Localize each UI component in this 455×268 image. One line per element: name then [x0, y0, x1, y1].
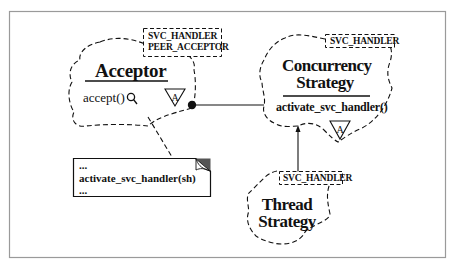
concurrency-class-name-line-1: Concurrency	[282, 57, 368, 74]
concurrency-abstract-icon: A	[330, 121, 350, 139]
thread-class-name-line-1: Thread	[258, 196, 316, 213]
note-line-1: ...	[79, 159, 87, 171]
thread-class-name-line-2: Strategy	[258, 213, 316, 230]
acceptor-template-param-2: PEER_ACCEPTOR	[148, 42, 229, 53]
thread-template-param: SVC_HANDLER	[283, 173, 352, 184]
magnifier-icon	[127, 93, 137, 104]
association-end-dot	[188, 101, 196, 109]
concurrency-method-activate: activate_svc_handler()	[276, 101, 388, 113]
concurrency-template-param: SVC_HANDLER	[330, 36, 399, 47]
acceptor-abstract-icon: A	[165, 89, 185, 106]
note-line-3: ...	[79, 184, 87, 196]
concurrency-class-name-line-2: Strategy	[282, 74, 368, 91]
svg-text:A: A	[171, 92, 179, 103]
acceptor-class-name: Acceptor	[95, 61, 166, 80]
note-line-2: activate_svc_handler(sh)	[79, 172, 196, 184]
acceptor-method-accept: accept()	[83, 91, 125, 104]
acceptor-template-param-1: SVC_HANDLER	[148, 31, 217, 42]
svg-text:A: A	[336, 124, 344, 135]
